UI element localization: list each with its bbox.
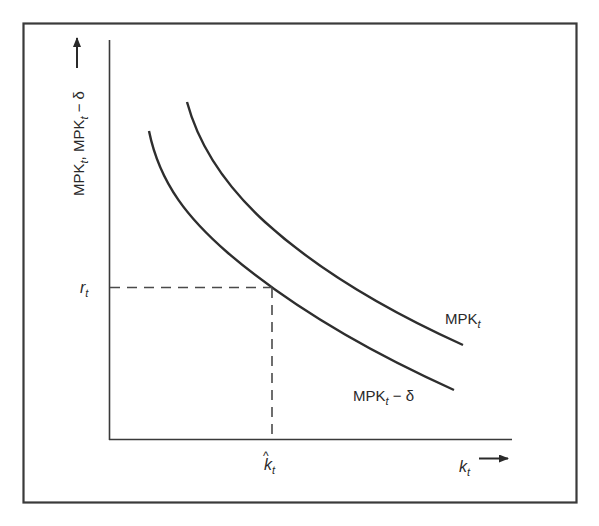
r-t-label: rt: [80, 279, 89, 299]
mpk-curve-label: MPKt: [445, 310, 482, 330]
x-axis-label: kt: [459, 458, 471, 478]
k-hat-label: kt: [264, 456, 276, 476]
figure-frame: [24, 24, 577, 503]
curve-mpk-minus-delta: [149, 131, 454, 390]
mpk-minus-delta-curve-label: MPKt − δ: [353, 387, 414, 407]
y-axis-label: MPKt, MPKt − δ: [70, 91, 90, 196]
curve-mpk: [187, 102, 463, 345]
capital-demand-diagram: MPKt, MPKt − δ rt ^ kt kt MPKt MPKt − δ: [0, 0, 599, 526]
